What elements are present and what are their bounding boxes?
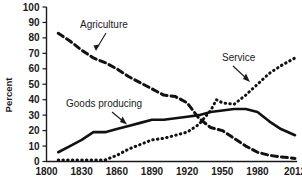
y-axis-tick-label: 80	[28, 32, 40, 43]
x-axis-tick-label: 2012	[284, 166, 302, 177]
chart-figure: Percent 0102030405060708090100 180018301…	[0, 0, 302, 185]
x-axis-ticks: 18001830186018901920195019802012	[35, 166, 302, 177]
x-axis-tick-label: 1860	[106, 166, 129, 177]
x-axis-tick-label: 1950	[211, 166, 234, 177]
annotation-label-agriculture: Agriculture	[80, 19, 128, 30]
y-axis-tick-label: 90	[28, 17, 40, 28]
y-axis-ticks: 0102030405060708090100	[23, 2, 47, 168]
annotation-goods-producing: Goods producing	[66, 98, 142, 125]
line-chart: Percent 0102030405060708090100 180018301…	[0, 0, 302, 185]
annotation-agriculture: Agriculture	[80, 19, 128, 51]
y-axis-tick-label: 50	[28, 79, 40, 90]
x-axis-tick-label: 1890	[141, 166, 164, 177]
y-axis-tick-label: 100	[23, 2, 40, 13]
y-axis-tick-label: 70	[28, 48, 40, 59]
series-paths	[58, 33, 295, 160]
annotation-label-goods-producing: Goods producing	[66, 98, 142, 109]
annotation-service: Service	[222, 52, 256, 82]
y-axis-tick-label: 10	[28, 141, 40, 152]
annotation-arrowhead-agriculture	[94, 45, 100, 52]
annotation-label-service: Service	[222, 52, 256, 63]
y-axis-tick-label: 60	[28, 63, 40, 74]
y-axis-label: Percent	[3, 77, 14, 113]
x-axis-tick-label: 1800	[35, 166, 58, 177]
y-axis-label-group: Percent	[3, 77, 14, 113]
series-line-agriculture	[58, 33, 295, 158]
y-axis-tick-label: 30	[28, 110, 40, 121]
series-line-goods-producing	[58, 109, 295, 152]
y-axis-tick-label: 20	[28, 125, 40, 136]
annotation-arrowhead-goods-producing	[120, 117, 127, 125]
x-axis-tick-label: 1830	[71, 166, 94, 177]
x-axis-tick-label: 1980	[246, 166, 269, 177]
y-axis-tick-label: 40	[28, 94, 40, 105]
annotation-arrowhead-service	[243, 74, 250, 83]
x-axis-tick-label: 1920	[176, 166, 199, 177]
